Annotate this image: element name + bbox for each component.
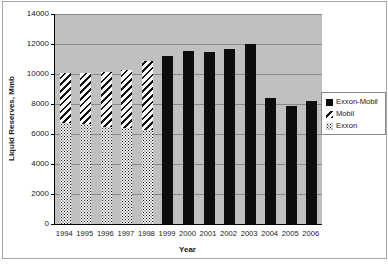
chart-frame: Liquid Reserves, Mmb 0200040006000800010…	[2, 1, 387, 259]
legend-label: Exxon	[336, 122, 357, 130]
y-tick-mark	[51, 224, 55, 225]
bar-2001-exxon-mobil	[204, 52, 215, 225]
bar-2000-exxon-mobil	[183, 51, 194, 224]
legend-item-exxon-mobil: Exxon-Mobil	[326, 96, 385, 108]
bar-1996-exxon	[101, 127, 112, 225]
x-tick-label-2002: 2002	[218, 229, 239, 238]
x-tick-label-2001: 2001	[198, 229, 219, 238]
chart-screenshot: { "chart_data": { "type": "bar", "subtyp…	[0, 0, 388, 271]
bar-2004-exxon-mobil	[265, 98, 276, 224]
gridline-12000	[55, 44, 322, 45]
bar-2003-exxon-mobil	[245, 44, 256, 224]
bar-2005-exxon-mobil	[286, 106, 297, 225]
bar-1998-exxon	[142, 130, 153, 224]
x-tick-label-2003: 2003	[239, 229, 260, 238]
bar-1998-mobil	[142, 61, 153, 131]
legend-label: Mobil	[336, 110, 354, 118]
x-tick-label-2006: 2006	[300, 229, 321, 238]
bar-1997-mobil	[121, 70, 132, 129]
legend-item-mobil: Mobil	[326, 108, 385, 120]
legend-label: Exxon-Mobil	[336, 98, 378, 106]
legend-marker-exxon	[326, 123, 333, 130]
y-tick-mark	[51, 134, 55, 135]
y-tick-mark	[51, 44, 55, 45]
legend-marker-exxon-mobil	[326, 99, 333, 106]
y-tick-mark	[51, 164, 55, 165]
bar-1995-mobil	[80, 73, 91, 125]
x-tick-label-2000: 2000	[177, 229, 198, 238]
bar-1997-exxon	[121, 128, 132, 224]
x-tick-label-1997: 1997	[116, 229, 137, 238]
y-tick-label: 10000	[5, 70, 49, 78]
legend-marker-mobil	[326, 111, 333, 118]
bar-1996-mobil	[101, 72, 112, 127]
y-tick-label: 14000	[5, 10, 49, 18]
x-tick-label-1996: 1996	[95, 229, 116, 238]
y-tick-label: 4000	[5, 160, 49, 168]
gridline-14000	[55, 14, 322, 15]
bar-2002-exxon-mobil	[224, 49, 235, 225]
y-tick-label: 6000	[5, 130, 49, 138]
y-tick-label: 12000	[5, 40, 49, 48]
bar-1994-exxon	[60, 123, 71, 224]
plot-area	[54, 14, 322, 225]
bar-1994-mobil	[60, 73, 71, 123]
y-tick-mark	[51, 104, 55, 105]
x-tick-label-1994: 1994	[54, 229, 75, 238]
y-tick-mark	[51, 74, 55, 75]
x-tick-label-2005: 2005	[280, 229, 301, 238]
y-tick-label: 8000	[5, 100, 49, 108]
x-axis-title: Year	[54, 245, 321, 254]
legend: Exxon-MobilMobilExxon	[321, 92, 386, 135]
y-tick-label: 0	[5, 220, 49, 228]
legend-item-exxon: Exxon	[326, 120, 385, 132]
y-tick-mark	[51, 14, 55, 15]
y-tick-mark	[51, 194, 55, 195]
bar-2006-exxon-mobil	[306, 101, 317, 224]
x-tick-label-1999: 1999	[157, 229, 178, 238]
bar-1995-exxon	[80, 124, 91, 224]
x-tick-label-2004: 2004	[259, 229, 280, 238]
x-tick-label-1995: 1995	[75, 229, 96, 238]
y-tick-label: 2000	[5, 190, 49, 198]
bar-1999-exxon-mobil	[162, 56, 173, 224]
x-tick-label-1998: 1998	[136, 229, 157, 238]
